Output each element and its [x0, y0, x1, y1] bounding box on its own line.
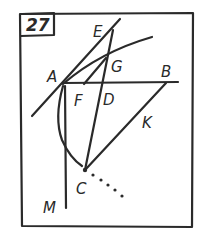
- label-A: A: [46, 68, 57, 86]
- label-F: F: [74, 92, 83, 110]
- line-A-to-M: [65, 86, 66, 208]
- label-B: B: [161, 63, 171, 81]
- label-E: E: [93, 23, 103, 41]
- geometry-diagram: 27 E G A B F D K C M: [0, 0, 205, 240]
- label-D: D: [103, 91, 115, 109]
- line-B-to-C: [85, 83, 166, 170]
- label-G: G: [111, 58, 123, 76]
- label-M: M: [43, 199, 56, 217]
- label-K: K: [142, 114, 153, 132]
- label-C: C: [76, 180, 87, 198]
- point-C: [83, 168, 87, 172]
- dotted-line-from-C: [91, 173, 123, 197]
- figure-number: 27: [26, 15, 50, 35]
- line-A-B: [63, 82, 178, 83]
- outer-frame: [20, 13, 193, 227]
